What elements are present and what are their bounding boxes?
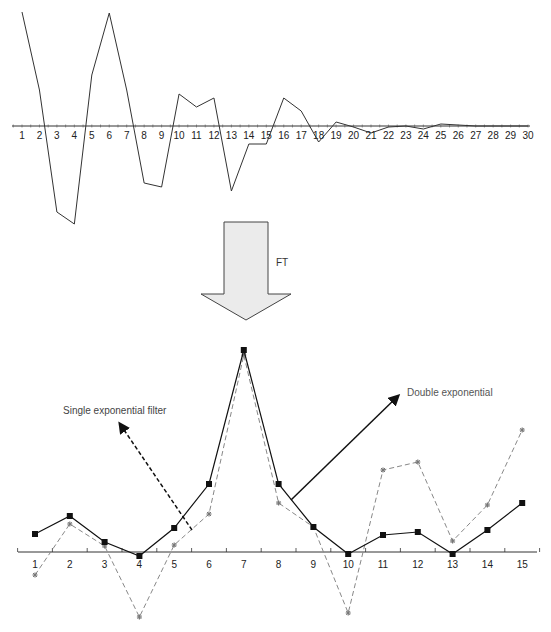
tick-label: 24 xyxy=(418,130,430,141)
tick-label: 3 xyxy=(102,559,108,570)
star-marker xyxy=(137,615,142,620)
square-marker xyxy=(345,551,351,557)
star-marker xyxy=(450,539,455,544)
star-marker xyxy=(346,611,351,616)
tick-label: 12 xyxy=(412,559,424,570)
tick-label: 6 xyxy=(206,559,212,570)
double-exponential-markers xyxy=(32,347,525,559)
tick-label: 26 xyxy=(453,130,465,141)
double-exponential-line xyxy=(35,350,522,556)
tick-label: 2 xyxy=(67,559,73,570)
top-signal-chart: 1234567891011121314151617181920212223242… xyxy=(12,12,534,224)
tick-label: 11 xyxy=(378,559,389,570)
star-marker xyxy=(485,503,490,508)
square-marker xyxy=(136,553,142,559)
tick-label: 7 xyxy=(241,559,247,570)
square-marker xyxy=(32,531,38,537)
down-arrow-icon xyxy=(201,222,291,320)
tick-label: 15 xyxy=(517,559,529,570)
square-marker xyxy=(450,551,456,557)
tick-label: 9 xyxy=(159,130,165,141)
tick-label: 13 xyxy=(226,130,238,141)
square-marker xyxy=(484,527,490,533)
tick-label: 5 xyxy=(89,130,95,141)
star-marker xyxy=(67,522,72,527)
tick-label: 19 xyxy=(331,130,343,141)
star-marker xyxy=(381,468,386,473)
square-marker xyxy=(519,500,525,506)
star-marker xyxy=(520,428,525,433)
tick-label: 2 xyxy=(37,130,43,141)
tick-label: 7 xyxy=(124,130,130,141)
tick-label: 12 xyxy=(208,130,220,141)
tick-label: 28 xyxy=(488,130,500,141)
square-marker xyxy=(241,347,247,353)
tick-label: 27 xyxy=(470,130,482,141)
tick-label: 14 xyxy=(243,130,255,141)
star-marker xyxy=(276,501,281,506)
tick-label: 9 xyxy=(311,559,317,570)
star-marker xyxy=(415,460,420,465)
tick-label: 10 xyxy=(173,130,185,141)
bottom-spectrum-chart: 123456789101112131415 Single exponential… xyxy=(18,347,540,620)
tick-label: 8 xyxy=(276,559,282,570)
square-marker xyxy=(276,481,282,487)
single-exponential-annotation-arrow xyxy=(120,424,192,530)
tick-label: 30 xyxy=(522,130,534,141)
tick-label: 11 xyxy=(191,130,202,141)
square-marker xyxy=(380,532,386,538)
tick-label: 6 xyxy=(106,130,112,141)
square-marker xyxy=(67,513,73,519)
tick-label: 14 xyxy=(482,559,494,570)
tick-label: 23 xyxy=(400,130,412,141)
tick-label: 10 xyxy=(343,559,355,570)
double-exponential-annotation-arrow xyxy=(291,396,398,500)
tick-label: 20 xyxy=(348,130,360,141)
tick-label: 29 xyxy=(505,130,517,141)
star-marker xyxy=(33,573,38,578)
tick-label: 8 xyxy=(141,130,147,141)
bottom-x-tick-labels: 123456789101112131415 xyxy=(32,559,528,570)
tick-label: 25 xyxy=(435,130,447,141)
square-marker xyxy=(206,481,212,487)
square-marker xyxy=(310,524,316,530)
star-marker xyxy=(172,543,177,548)
tick-label: 5 xyxy=(171,559,177,570)
square-marker xyxy=(171,525,177,531)
figure: 1234567891011121314151617181920212223242… xyxy=(0,0,551,632)
square-marker xyxy=(415,529,421,535)
single-exponential-annotation: Single exponential filter xyxy=(63,405,167,416)
tick-label: 4 xyxy=(72,130,78,141)
star-marker xyxy=(207,512,212,517)
tick-label: 3 xyxy=(54,130,60,141)
tick-label: 16 xyxy=(278,130,290,141)
top-signal-line xyxy=(22,12,528,224)
tick-label: 17 xyxy=(296,130,308,141)
ft-label: FT xyxy=(276,257,288,268)
tick-label: 1 xyxy=(32,559,38,570)
tick-label: 13 xyxy=(447,559,459,570)
top-x-tick-labels: 1234567891011121314151617181920212223242… xyxy=(19,130,534,141)
square-marker xyxy=(102,539,108,545)
double-exponential-annotation: Double exponential xyxy=(407,387,493,398)
tick-label: 1 xyxy=(19,130,25,141)
ft-transform-arrow: FT xyxy=(201,222,291,320)
tick-label: 22 xyxy=(383,130,395,141)
tick-label: 4 xyxy=(137,559,143,570)
